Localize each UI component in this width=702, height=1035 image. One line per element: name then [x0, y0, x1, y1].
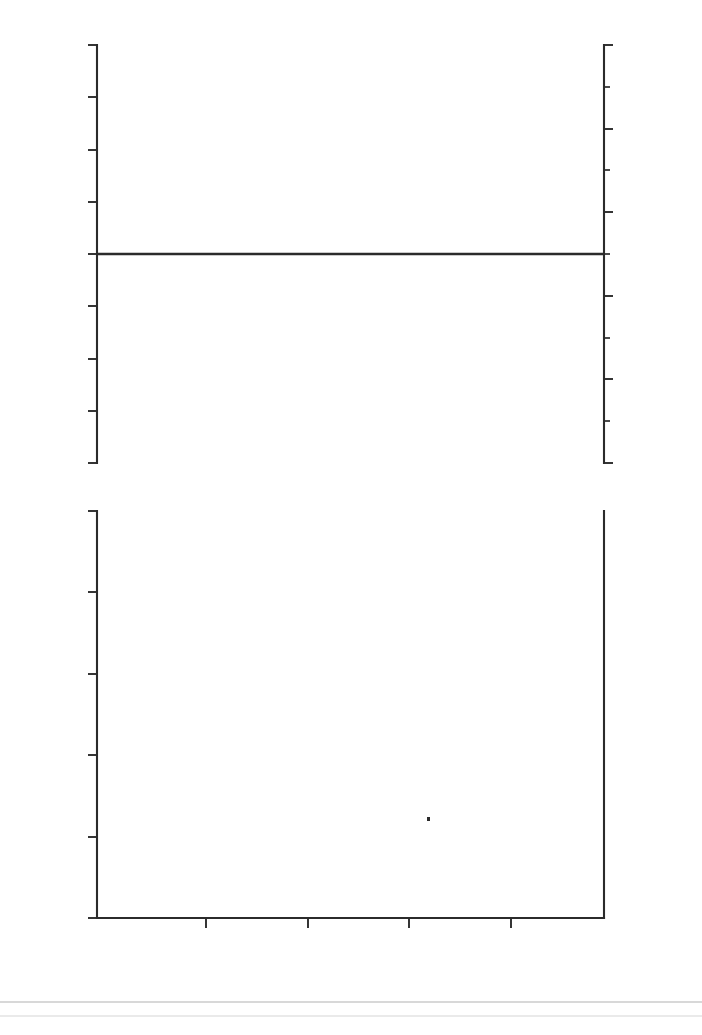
- plot-svg: [0, 0, 702, 1035]
- bottom-panel-x-ticks: [206, 918, 511, 928]
- bottom-panel-y-ticks: [88, 511, 97, 918]
- figure-container: [0, 0, 702, 1035]
- top-panel: [88, 45, 613, 463]
- top-panel-left-ticks: [88, 45, 97, 463]
- bottom-panel: [88, 511, 604, 928]
- top-panel-right-ticks: [604, 45, 613, 463]
